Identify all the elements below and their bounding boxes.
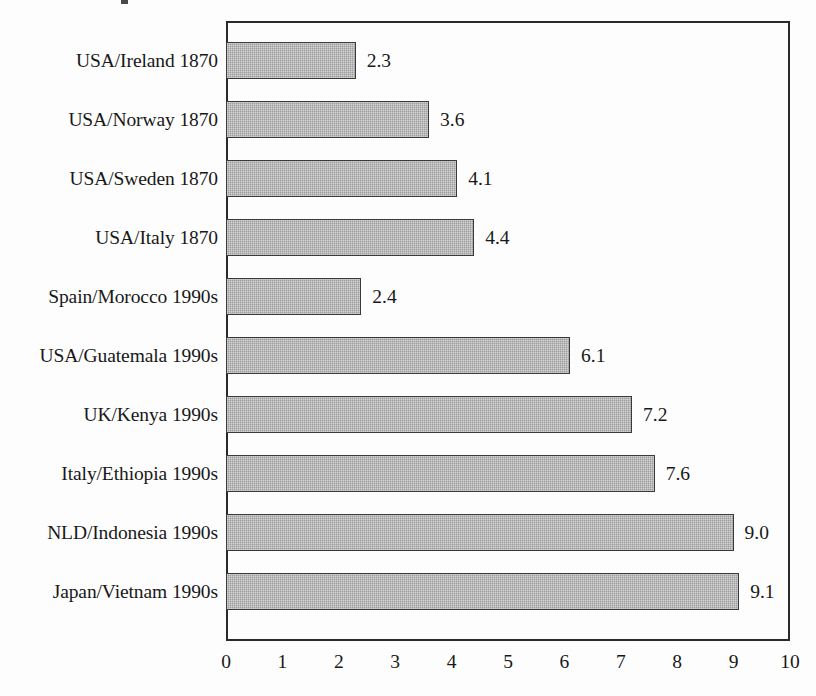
x-tick-label: 2 <box>319 650 359 674</box>
x-tick-label: 1 <box>262 650 302 674</box>
category-label: USA/Sweden 1870 <box>0 160 218 197</box>
category-label: USA/Norway 1870 <box>0 101 218 138</box>
bar <box>226 396 632 433</box>
bar-row: UK/Kenya 1990s7.2 <box>0 396 816 433</box>
x-tick-label: 8 <box>657 650 697 674</box>
category-label: USA/Italy 1870 <box>0 219 218 256</box>
bar-chart: USA/Ireland 18702.3USA/Norway 18703.6USA… <box>0 0 816 696</box>
bar <box>226 455 655 492</box>
bar <box>226 278 361 315</box>
x-tick-label: 7 <box>601 650 641 674</box>
x-tick-label: 9 <box>714 650 754 674</box>
bar <box>226 101 429 138</box>
bar <box>226 219 474 256</box>
bar-row: Japan/Vietnam 1990s9.1 <box>0 573 816 610</box>
x-tick-label: 10 <box>770 650 810 674</box>
x-tick-label: 6 <box>544 650 584 674</box>
bar-value-label: 7.6 <box>666 455 690 492</box>
bar <box>226 337 570 374</box>
category-label: NLD/Indonesia 1990s <box>0 514 218 551</box>
bar-value-label: 9.1 <box>750 573 774 610</box>
bar-value-label: 2.4 <box>372 278 396 315</box>
x-tick-label: 0 <box>206 650 246 674</box>
category-label: USA/Ireland 1870 <box>0 42 218 79</box>
bar-value-label: 7.2 <box>643 396 667 433</box>
bar-row: Spain/Morocco 1990s2.4 <box>0 278 816 315</box>
bar-value-label: 9.0 <box>745 514 769 551</box>
category-label: UK/Kenya 1990s <box>0 396 218 433</box>
x-tick-label: 4 <box>432 650 472 674</box>
bar <box>226 42 356 79</box>
bar-value-label: 4.4 <box>485 219 509 256</box>
clipped-title-fragment <box>121 0 128 4</box>
category-label: Italy/Ethiopia 1990s <box>0 455 218 492</box>
category-label: USA/Guatemala 1990s <box>0 337 218 374</box>
bar <box>226 573 739 610</box>
bar-row: USA/Guatemala 1990s6.1 <box>0 337 816 374</box>
bar-row: USA/Norway 18703.6 <box>0 101 816 138</box>
bar-value-label: 4.1 <box>468 160 492 197</box>
bar-row: Italy/Ethiopia 1990s7.6 <box>0 455 816 492</box>
bar-row: USA/Sweden 18704.1 <box>0 160 816 197</box>
bar-row: USA/Ireland 18702.3 <box>0 42 816 79</box>
bar <box>226 514 734 551</box>
bar-value-label: 3.6 <box>440 101 464 138</box>
x-tick-label: 5 <box>488 650 528 674</box>
bar-value-label: 6.1 <box>581 337 605 374</box>
bar-row: NLD/Indonesia 1990s9.0 <box>0 514 816 551</box>
category-label: Spain/Morocco 1990s <box>0 278 218 315</box>
x-tick-label: 3 <box>375 650 415 674</box>
bar <box>226 160 457 197</box>
bar-row: USA/Italy 18704.4 <box>0 219 816 256</box>
category-label: Japan/Vietnam 1990s <box>0 573 218 610</box>
bar-value-label: 2.3 <box>367 42 391 79</box>
